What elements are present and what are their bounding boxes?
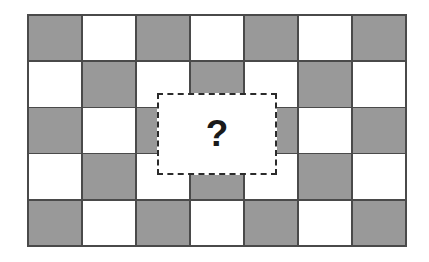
question-mark-label: ? <box>206 115 229 152</box>
figure-canvas: ? <box>0 0 429 262</box>
grid-cell <box>83 16 135 61</box>
grid-cell <box>83 154 135 199</box>
grid-cell <box>353 108 405 153</box>
grid-cell <box>137 201 189 246</box>
grid-cell <box>245 16 297 61</box>
grid-cell <box>29 16 81 61</box>
grid-cell <box>29 154 81 199</box>
hidden-region-box: ? <box>157 93 277 175</box>
grid-cell <box>83 62 135 107</box>
grid-cell <box>191 201 243 246</box>
grid-cell <box>245 201 297 246</box>
grid-cell <box>353 201 405 246</box>
grid-cell <box>299 16 351 61</box>
grid-cell <box>191 16 243 61</box>
grid-cell <box>299 154 351 199</box>
grid-cell <box>29 201 81 246</box>
grid-cell <box>83 108 135 153</box>
grid-cell <box>353 62 405 107</box>
grid-cell <box>299 62 351 107</box>
grid-cell <box>83 201 135 246</box>
grid-cell <box>137 16 189 61</box>
grid-cell <box>353 154 405 199</box>
grid-cell <box>29 62 81 107</box>
grid-cell <box>353 16 405 61</box>
grid-cell <box>29 108 81 153</box>
grid-cell <box>299 201 351 246</box>
grid-cell <box>299 108 351 153</box>
